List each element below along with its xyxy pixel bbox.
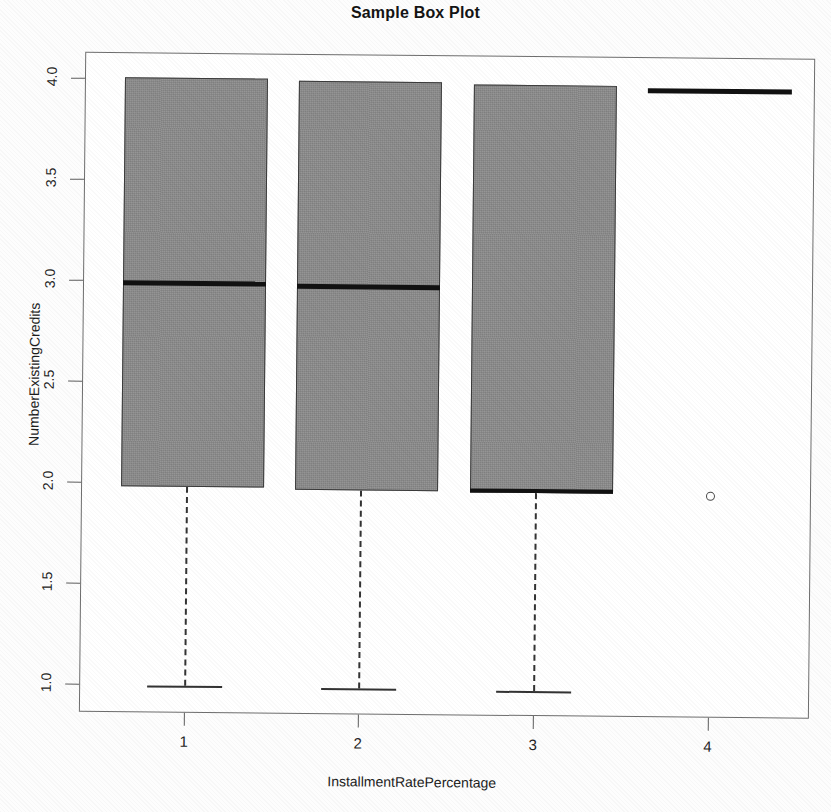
y-tick-mark-5 — [69, 280, 83, 281]
y-tick-mark-1 — [65, 684, 79, 685]
x-tick-mark-4 — [708, 718, 709, 731]
y-tick-mark-3 — [67, 482, 81, 483]
y-tick-text-3: 2.0 — [39, 471, 55, 491]
y-tick-label-4: 2.5 — [0, 371, 58, 388]
plot-area: NumberExistingCredits InstallmentRatePer… — [0, 0, 831, 812]
y-tick-text-7: 4.0 — [43, 67, 59, 87]
x-tick-mark-3 — [533, 716, 534, 729]
x-tick-label-2: 2 — [328, 734, 388, 752]
x-tick-mark-2 — [358, 714, 359, 727]
y-tick-text-1: 1.0 — [37, 673, 53, 693]
y-tick-text-2: 1.5 — [38, 572, 54, 592]
y-tick-label-2: 1.5 — [0, 573, 56, 590]
y-tick-mark-4 — [68, 381, 82, 382]
y-tick-mark-6 — [70, 179, 84, 180]
y-tick-label-7: 4.0 — [3, 68, 61, 85]
y-tick-label-3: 2.0 — [0, 472, 57, 489]
x-tick-label-4: 4 — [678, 737, 738, 755]
x-tick-mark-1 — [184, 713, 185, 726]
chart-page: Sample Box Plot NumberExistingCredits In… — [0, 0, 831, 812]
y-tick-text-5: 3.0 — [41, 269, 57, 289]
y-tick-mark-7 — [71, 78, 85, 79]
y-tick-text-4: 2.5 — [40, 370, 56, 390]
box-rect-3 — [470, 85, 617, 494]
y-tick-label-5: 3.0 — [1, 270, 59, 287]
x-tick-label-1: 1 — [154, 732, 214, 750]
x-axis-title: InstallmentRatePercentage — [0, 770, 827, 794]
y-tick-mark-2 — [66, 583, 80, 584]
y-tick-text-6: 3.5 — [42, 168, 58, 188]
y-tick-label-6: 3.5 — [2, 169, 60, 186]
outlier-point-4 — [706, 492, 715, 501]
x-tick-label-3: 3 — [503, 736, 563, 754]
y-tick-label-1: 1.0 — [0, 674, 55, 691]
